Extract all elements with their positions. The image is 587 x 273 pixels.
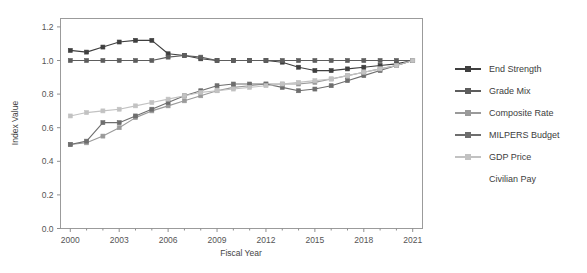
series-marker [345, 79, 349, 83]
x-tick-label: 2018 [354, 235, 373, 245]
series-marker [394, 59, 398, 63]
series-marker [329, 59, 333, 63]
series-marker [85, 139, 89, 143]
series-marker [297, 59, 301, 63]
series-marker [248, 85, 252, 89]
series-marker [117, 59, 121, 63]
series-marker [313, 69, 317, 73]
series-marker [134, 59, 138, 63]
legend-marker [465, 132, 471, 138]
y-tick-label: 0.6 [42, 123, 54, 133]
series-marker [199, 55, 203, 59]
series-marker [215, 84, 219, 88]
series-marker [134, 104, 138, 108]
series-marker [362, 65, 366, 69]
series-marker [297, 65, 301, 69]
series-marker [182, 99, 186, 103]
legend-item[interactable]: Civilian Pay [455, 168, 587, 190]
series-marker [199, 90, 203, 94]
series-marker [248, 59, 252, 63]
series-marker [166, 55, 170, 59]
x-tick-label: 2009 [208, 235, 227, 245]
plot-frame [61, 19, 423, 229]
x-axis-ticks: 20002003200620092012201520182021 [61, 229, 423, 245]
series-marker [134, 114, 138, 118]
series-marker [297, 89, 301, 93]
series-marker [85, 50, 89, 54]
series-marker [345, 67, 349, 71]
legend-item[interactable]: Grade Mix [455, 80, 587, 102]
legend-label: GDP Price [489, 151, 531, 163]
series-marker [378, 59, 382, 63]
series-marker [362, 59, 366, 63]
series-marker [231, 82, 235, 86]
series-marker [280, 59, 284, 63]
x-tick-label: 2012 [256, 235, 275, 245]
legend-key-icon [455, 129, 481, 141]
series-marker [68, 59, 72, 63]
x-tick-label: 2006 [159, 235, 178, 245]
legend-item[interactable]: End Strength [455, 58, 587, 80]
x-tick-label: 2000 [61, 235, 80, 245]
series-marker [166, 97, 170, 101]
series-marker [411, 59, 415, 63]
legend-item[interactable]: GDP Price [455, 146, 587, 168]
series-marker [264, 84, 268, 88]
series-marker [68, 48, 72, 52]
legend-label: Composite Rate [489, 107, 554, 119]
legend-label: MILPERS Budget [489, 129, 560, 141]
legend-marker [465, 88, 471, 94]
series-marker [345, 74, 349, 78]
series-marker [101, 121, 105, 125]
x-axis-title: Fiscal Year [220, 248, 262, 258]
series-marker [378, 67, 382, 71]
series-marker [313, 59, 317, 63]
y-axis-title: Index Value [10, 101, 20, 146]
series-marker [150, 101, 154, 105]
series-marker [362, 70, 366, 74]
series-marker [85, 59, 89, 63]
series-marker [345, 59, 349, 63]
series-marker [68, 143, 72, 147]
y-tick-label: 0.0 [42, 224, 54, 234]
series-marker [215, 89, 219, 93]
series-marker [150, 59, 154, 63]
legend-label: End Strength [489, 63, 542, 75]
legend-item[interactable]: Composite Rate [455, 102, 587, 124]
series-marker [297, 80, 301, 84]
legend-item[interactable]: MILPERS Budget [455, 124, 587, 146]
series-marker [150, 38, 154, 42]
legend-key-icon [455, 151, 481, 163]
series-marker [264, 59, 268, 63]
legend-label: Civilian Pay [489, 173, 536, 185]
series-marker [329, 69, 333, 73]
y-tick-label: 0.8 [42, 89, 54, 99]
chart-legend: End StrengthGrade MixComposite RateMILPE… [455, 58, 587, 190]
y-tick-label: 1.2 [42, 22, 54, 32]
legend-label: Grade Mix [489, 85, 531, 97]
series-marker [394, 64, 398, 68]
legend-marker [465, 66, 471, 72]
series-marker [117, 40, 121, 44]
x-tick-label: 2003 [110, 235, 129, 245]
series-marker [215, 59, 219, 63]
series-marker [134, 38, 138, 42]
legend-marker [465, 154, 471, 160]
series-marker [150, 107, 154, 111]
series-marker [231, 59, 235, 63]
legend-marker [465, 110, 471, 116]
series-marker [101, 45, 105, 49]
series-marker [101, 59, 105, 63]
series-marker [117, 121, 121, 125]
y-tick-label: 0.2 [42, 190, 54, 200]
series-marker [182, 53, 186, 57]
y-axis-ticks: 0.00.20.40.60.81.01.2 [42, 22, 61, 234]
series-marker [231, 87, 235, 91]
series-marker [117, 126, 121, 130]
series-marker [101, 134, 105, 138]
legend-key-icon [455, 107, 481, 119]
series-marker [117, 107, 121, 111]
legend-key-icon [455, 63, 481, 75]
series-marker [313, 87, 317, 91]
series-marker [313, 79, 317, 83]
